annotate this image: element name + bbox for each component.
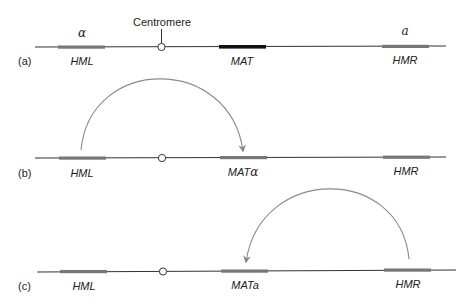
mat-name: MAT: [228, 166, 252, 178]
centromere-label: Centromere: [133, 16, 191, 28]
panel-label-c: (c): [18, 280, 31, 292]
hml-label: HML: [70, 167, 93, 179]
hmr-label: HMR: [392, 54, 417, 66]
panel-b: HML MATα HMR (b): [18, 79, 446, 179]
hmr-locus: [384, 269, 431, 272]
mat-a-locus: [221, 270, 268, 273]
hmr-allele-label: a: [401, 24, 408, 38]
panel-a: Centromere α a HML MAT HMR (a): [18, 16, 446, 67]
mat-name: MAT: [231, 279, 255, 291]
panel-label-b: (b): [18, 167, 31, 179]
hml-locus: [60, 270, 107, 273]
panel-label-a: (a): [18, 55, 31, 67]
mat-locus: [219, 45, 266, 49]
mating-type-switching-diagram: Centromere α a HML MAT HMR (a) HML MATα …: [0, 0, 473, 307]
mat-a-label: MATa: [231, 279, 259, 291]
hml-allele-label: α: [78, 26, 86, 40]
hmr-locus: [382, 45, 429, 48]
hml-label: HML: [72, 280, 95, 292]
hml-locus: [58, 46, 105, 49]
mat-alpha-locus: [220, 156, 267, 159]
panel-c: HML MATa HMR (c): [18, 189, 456, 292]
hmr-label: HMR: [393, 165, 418, 177]
centromere-icon: [159, 268, 166, 275]
hml-locus: [59, 157, 106, 160]
hmr-label: HMR: [395, 278, 420, 290]
hmr-locus: [383, 156, 430, 159]
centromere-icon: [158, 43, 165, 50]
centromere-icon: [158, 154, 165, 161]
mat-allele: α: [250, 165, 258, 179]
switch-arrow-hmr-to-mat: [246, 189, 409, 262]
hml-label: HML: [70, 55, 93, 67]
mat-label: MAT: [231, 55, 255, 67]
switch-arrow-hml-to-mat: [81, 79, 243, 151]
mat-allele: a: [253, 279, 259, 291]
mat-alpha-label: MATα: [228, 165, 259, 179]
